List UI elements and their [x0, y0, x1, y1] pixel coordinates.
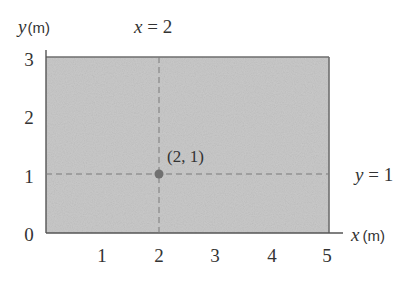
shaded-region — [46, 57, 329, 233]
x-tick-label: 4 — [267, 245, 277, 266]
point-2-1 — [155, 170, 164, 179]
x-tick-label: 1 — [97, 245, 107, 266]
x-axis-label: x(m) — [350, 224, 385, 245]
coordinate-diagram: (2, 1) y(m) x(m) x = 2 y = 1 3 2 1 0 1 2… — [0, 0, 418, 282]
y-tick-label: 0 — [24, 224, 34, 245]
point-label: (2, 1) — [167, 147, 204, 166]
x-tick-label: 2 — [154, 245, 164, 266]
vertical-line-label: x = 2 — [133, 16, 172, 37]
y-tick-label: 1 — [24, 166, 34, 187]
y-tick-label: 2 — [24, 107, 34, 128]
y-axis-label: y(m) — [16, 16, 50, 37]
x-tick-label: 5 — [322, 245, 332, 266]
horizontal-line-label: y = 1 — [353, 164, 393, 185]
x-tick-label: 3 — [210, 245, 220, 266]
y-tick-label: 3 — [24, 49, 34, 70]
